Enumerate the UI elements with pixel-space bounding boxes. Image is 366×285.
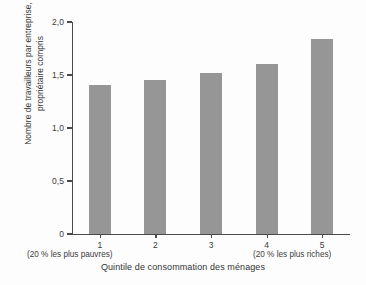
- x-tick-mark: [100, 234, 101, 238]
- annotation-richest: (20 % les plus riches): [253, 250, 331, 259]
- x-axis-title: Quintile de consommation des ménages: [0, 262, 366, 272]
- plot-area: [72, 22, 350, 234]
- y-tick-label: 0,5: [40, 177, 64, 186]
- y-tick-label: 0: [40, 230, 64, 239]
- x-tick-label: 2: [135, 240, 175, 250]
- x-tick-mark: [267, 234, 268, 238]
- bar: [144, 80, 166, 234]
- bar: [311, 39, 333, 234]
- x-tick-label: 5: [302, 240, 342, 250]
- x-tick-mark: [322, 234, 323, 238]
- bar: [200, 73, 222, 234]
- y-tick-label: 2,0: [40, 18, 64, 27]
- bar: [256, 64, 278, 234]
- y-tick-label: 1,0: [40, 124, 64, 133]
- x-tick-label: 1: [80, 240, 120, 250]
- y-tick-label: 1,5: [40, 71, 64, 80]
- bar: [89, 85, 111, 234]
- bar-chart-figure: Nombre de travailleurs par entreprise, p…: [0, 0, 366, 285]
- annotation-poorest: (20 % les plus pauvres): [27, 250, 113, 259]
- y-axis-title-line-1: Nombre de travailleurs par entreprise,: [23, 0, 35, 174]
- x-tick-label: 3: [191, 240, 231, 250]
- x-tick-mark: [211, 234, 212, 238]
- x-tick-mark: [155, 234, 156, 238]
- x-tick-label: 4: [247, 240, 287, 250]
